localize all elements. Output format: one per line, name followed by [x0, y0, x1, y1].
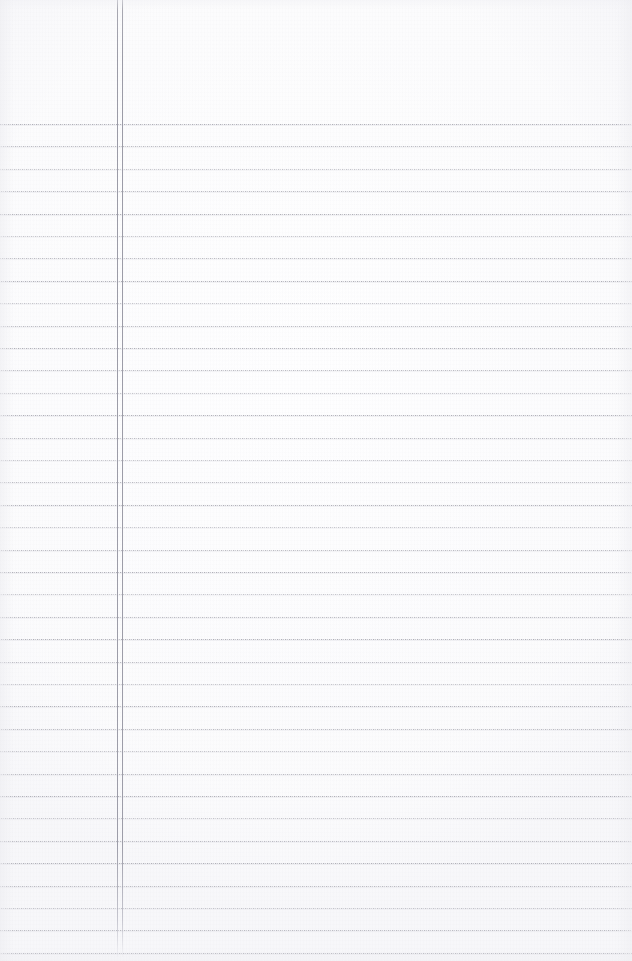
ruled-line: [0, 370, 632, 371]
ruled-line: [0, 460, 632, 461]
ruled-line: [0, 258, 632, 259]
ruled-line: [0, 684, 632, 685]
ruled-line: [0, 236, 632, 237]
ruled-line: [0, 326, 632, 327]
ruled-line: [0, 639, 632, 640]
ruled-line: [0, 303, 632, 304]
ruled-line: [0, 393, 632, 394]
ruled-line: [0, 774, 632, 775]
ruled-line: [0, 818, 632, 819]
margin-rule-right: [122, 0, 123, 957]
ruled-line: [0, 550, 632, 551]
ruled-line: [0, 527, 632, 528]
ruled-line: [0, 572, 632, 573]
ruled-line: [0, 729, 632, 730]
ruled-line: [0, 438, 632, 439]
ruled-line: [0, 796, 632, 797]
ruled-line: [0, 706, 632, 707]
ruled-line: [0, 863, 632, 864]
ruled-line: [0, 348, 632, 349]
ruled-line: [0, 281, 632, 282]
ruled-line: [0, 214, 632, 215]
ruled-line: [0, 908, 632, 909]
ruled-line: [0, 617, 632, 618]
ruled-line: [0, 662, 632, 663]
ruled-line: [0, 146, 632, 147]
ruled-line: [0, 191, 632, 192]
ruled-line: [0, 930, 632, 931]
ruled-line: [0, 594, 632, 595]
ruled-line: [0, 415, 632, 416]
ruled-line: [0, 886, 632, 887]
ruled-line: [0, 841, 632, 842]
ruled-line: [0, 124, 632, 125]
scanned-notebook-page: [0, 0, 632, 961]
ruled-line: [0, 751, 632, 752]
margin-rule-left: [117, 0, 118, 957]
ruled-lines-layer: [0, 0, 632, 961]
ruled-line: [0, 953, 632, 954]
ruled-line: [0, 505, 632, 506]
ruled-line: [0, 482, 632, 483]
ruled-line: [0, 169, 632, 170]
